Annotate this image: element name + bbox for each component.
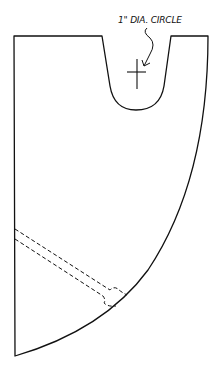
pattern-diagram: 1" DIA. CIRCLE — [0, 0, 221, 376]
pattern-outline — [14, 36, 208, 356]
slot — [15, 229, 127, 306]
annotation-label: 1" DIA. CIRCLE — [118, 15, 182, 25]
leader-arrow — [144, 28, 153, 66]
